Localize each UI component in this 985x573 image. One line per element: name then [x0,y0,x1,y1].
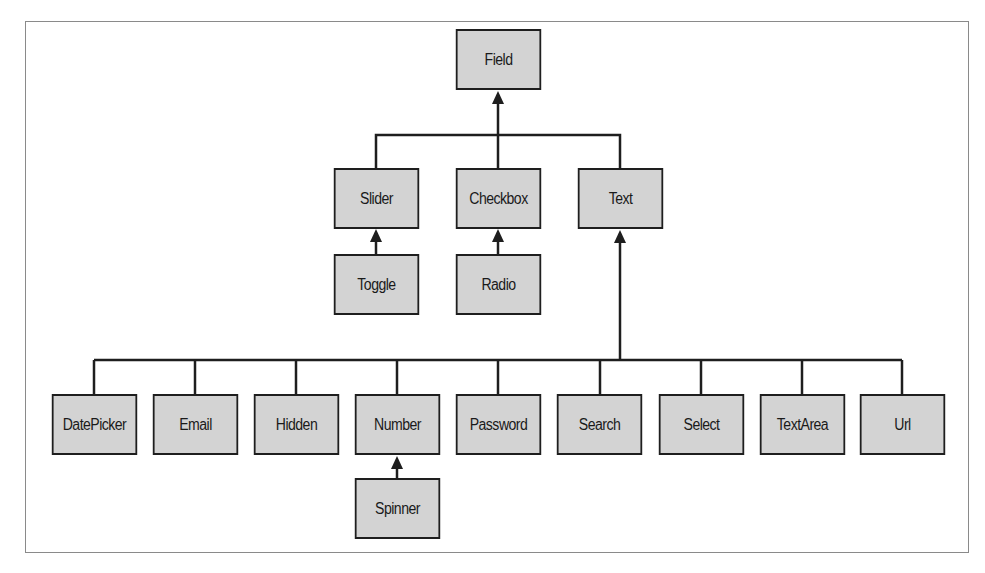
node-label: Slider [360,190,393,208]
node-label: TextArea [777,416,828,434]
node-label: Password [470,416,528,434]
node-label: Hidden [276,416,317,434]
node-textarea: TextArea [760,394,845,455]
node-label: Email [179,416,212,434]
node-label: Text [609,190,633,208]
node-datepicker: DatePicker [52,394,137,455]
arrow-up-icon [492,229,504,242]
node-label: Spinner [375,500,420,518]
node-url: Url [860,394,945,455]
arrow-up-icon [492,91,504,104]
node-email: Email [153,394,238,455]
node-label: Url [894,416,910,434]
arrow-up-icon [370,229,382,242]
node-slider: Slider [334,168,419,229]
node-select: Select [659,394,744,455]
node-hidden: Hidden [254,394,339,455]
node-search: Search [557,394,642,455]
node-label: Radio [481,276,515,294]
node-spinner: Spinner [355,478,440,539]
arrow-up-icon [614,230,626,243]
node-password: Password [456,394,541,455]
node-checkbox: Checkbox [456,168,541,229]
node-label: Number [374,416,421,434]
node-label: Field [485,51,513,69]
node-radio: Radio [456,254,541,315]
node-label: Search [579,416,620,434]
node-text: Text [578,168,663,229]
arrow-up-icon [391,456,403,469]
node-toggle: Toggle [334,254,419,315]
node-label: Checkbox [469,190,527,208]
node-field: Field [456,29,541,90]
node-number: Number [355,394,440,455]
node-label: Select [684,416,720,434]
node-label: DatePicker [63,416,127,434]
node-label: Toggle [357,276,395,294]
